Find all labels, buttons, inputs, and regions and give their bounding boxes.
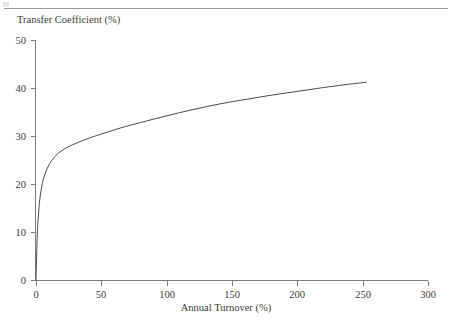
y-tick-label: 0 xyxy=(0,275,26,286)
x-tick-mark xyxy=(167,281,168,286)
y-tick-label: 40 xyxy=(0,83,26,94)
y-tick-label: 50 xyxy=(0,35,26,46)
x-tick-mark xyxy=(297,281,298,286)
y-tick-label: 30 xyxy=(0,131,26,142)
x-tick-label: 250 xyxy=(343,289,383,300)
y-tick-label: 10 xyxy=(0,227,26,238)
x-tick-label: 150 xyxy=(212,289,252,300)
x-axis-title: Annual Turnover (%) xyxy=(0,301,452,314)
x-tick-mark xyxy=(232,281,233,286)
x-tick-label: 100 xyxy=(147,289,187,300)
chart-figure: Transfer Coefficient (%) 01020304050 050… xyxy=(0,0,452,325)
x-tick-mark xyxy=(363,281,364,286)
y-axis-title: Transfer Coefficient (%) xyxy=(17,13,120,26)
plot-area: 01020304050 050100150200250300 xyxy=(36,40,428,280)
x-tick-label: 50 xyxy=(81,289,121,300)
x-tick-mark xyxy=(36,281,37,286)
x-tick-label: 200 xyxy=(277,289,317,300)
data-curve-layer xyxy=(36,40,428,281)
x-tick-mark xyxy=(101,281,102,286)
transfer-coefficient-curve xyxy=(36,82,367,280)
x-tick-label: 0 xyxy=(16,289,56,300)
x-tick-label: 300 xyxy=(408,289,448,300)
x-tick-mark xyxy=(428,281,429,286)
y-tick-label: 20 xyxy=(0,179,26,190)
